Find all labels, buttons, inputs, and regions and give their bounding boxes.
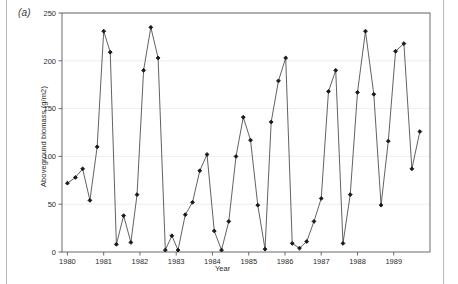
data-point-marker <box>95 145 99 149</box>
line-chart: 0501001502002501980198119821983198419851… <box>0 0 458 284</box>
x-tick-label: 1981 <box>95 257 112 266</box>
data-point-marker <box>227 220 231 224</box>
data-point-marker <box>386 139 390 143</box>
data-point-marker <box>241 115 245 119</box>
data-point-marker <box>205 153 209 157</box>
data-point-marker <box>364 29 368 33</box>
y-tick-label: 50 <box>48 200 56 209</box>
data-point-marker <box>334 68 338 72</box>
x-tick-label: 1989 <box>385 257 402 266</box>
data-point-marker <box>163 248 167 252</box>
data-point-marker <box>114 242 118 246</box>
data-point-marker <box>319 197 323 201</box>
data-point-marker <box>122 214 126 218</box>
data-point-marker <box>102 29 106 33</box>
data-point-marker <box>191 200 195 204</box>
x-tick-label: 1987 <box>313 257 330 266</box>
x-tick-label: 1986 <box>277 257 294 266</box>
data-point-marker <box>88 198 92 202</box>
data-point-marker <box>198 169 202 173</box>
data-point-marker <box>372 92 376 96</box>
data-point-marker <box>277 79 281 83</box>
y-tick-label: 250 <box>43 9 56 18</box>
data-point-marker <box>348 193 352 197</box>
data-point-marker <box>379 203 383 207</box>
data-point-marker <box>341 241 345 245</box>
data-point-marker <box>234 155 238 159</box>
data-point-marker <box>142 68 146 72</box>
data-point-marker <box>256 203 260 207</box>
data-point-marker <box>176 248 180 252</box>
x-axis-label: Year <box>215 264 230 273</box>
data-point-marker <box>418 130 422 134</box>
data-point-marker <box>284 56 288 60</box>
data-point-marker <box>327 89 331 93</box>
data-point-marker <box>356 90 360 94</box>
data-point-marker <box>156 56 160 60</box>
plot-frame <box>62 13 430 252</box>
data-point-marker <box>410 167 414 171</box>
x-tick-label: 1983 <box>168 257 185 266</box>
data-point-marker <box>249 138 253 142</box>
data-point-marker <box>212 229 216 233</box>
data-point-marker <box>312 220 316 224</box>
x-tick-label: 1980 <box>59 257 76 266</box>
data-point-marker <box>269 120 273 124</box>
data-point-marker <box>220 248 224 252</box>
figure-panel: (a) 050100150200250198019811982198319841… <box>0 0 458 284</box>
x-tick-label: 1988 <box>349 257 366 266</box>
data-point-marker <box>263 247 267 251</box>
data-point-marker <box>183 213 187 217</box>
data-point-marker <box>170 234 174 238</box>
y-axis-label: Aboveground biomass (g/m2) <box>39 47 48 227</box>
plot-area: 0501001502002501980198119821983198419851… <box>0 0 458 284</box>
data-point-marker <box>135 193 139 197</box>
data-point-marker <box>108 50 112 54</box>
x-tick-label: 1982 <box>132 257 149 266</box>
x-tick-label: 1985 <box>240 257 257 266</box>
data-point-marker <box>149 25 153 29</box>
data-point-marker <box>129 241 133 245</box>
y-tick-label: 0 <box>52 248 56 257</box>
